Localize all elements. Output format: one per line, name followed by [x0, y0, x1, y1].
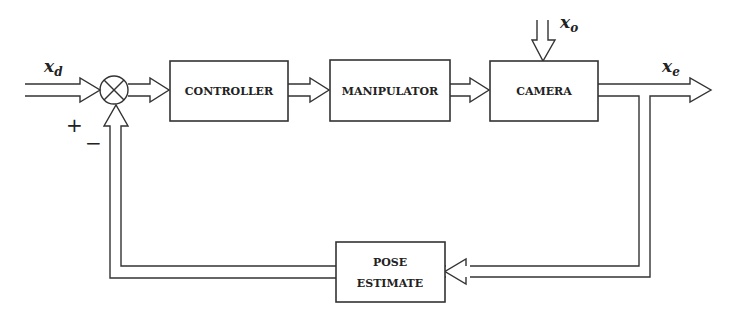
signal-label-xe: xe: [661, 56, 680, 79]
block-diagram: xd + − CONTROLLER MANIPULATOR xo CAMERA: [0, 0, 731, 319]
pose-estimate-label-line2: ESTIMATE: [357, 277, 423, 290]
arrow-junction-to-controller: [128, 78, 169, 102]
arrow-into-pose-estimate: [445, 259, 470, 284]
camera-label: CAMERA: [516, 85, 572, 98]
signal-label-xo: xo: [559, 12, 578, 35]
minus-sign: −: [85, 131, 102, 155]
pose-estimate-label-line1: POSE: [373, 256, 407, 269]
manipulator-block: MANIPULATOR: [330, 60, 450, 121]
arrow-controller-to-manipulator: [288, 78, 329, 102]
signal-label-xd: xd: [43, 56, 63, 79]
plus-sign: +: [66, 113, 83, 137]
manipulator-label: MANIPULATOR: [342, 85, 439, 98]
arrow-manipulator-to-camera: [450, 78, 489, 102]
summing-junction: [100, 76, 128, 104]
controller-label: CONTROLLER: [185, 85, 274, 98]
camera-block: CAMERA: [490, 61, 598, 121]
disturbance-arrow-xo: [532, 20, 555, 61]
input-arrow-xd: [25, 78, 100, 102]
feedback-arrow: [104, 105, 336, 278]
controller-block: CONTROLLER: [170, 61, 288, 121]
pose-estimate-block: POSE ESTIMATE: [336, 242, 445, 302]
